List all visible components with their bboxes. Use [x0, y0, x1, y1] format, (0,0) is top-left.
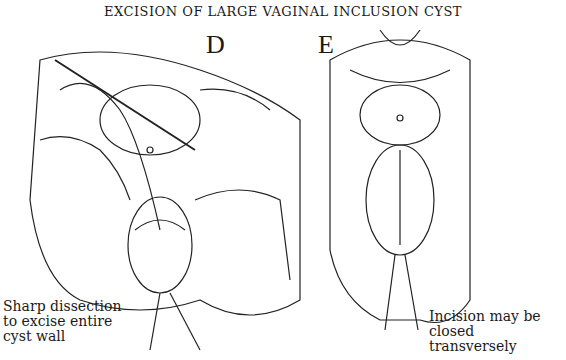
panel-e-drawing: [330, 30, 470, 330]
caption-panel-e: Incision may be closed transversely: [429, 309, 566, 354]
panel-label-d: D: [206, 30, 225, 60]
caption-line: closed transversely: [429, 324, 566, 354]
panel-label-e: E: [318, 30, 334, 60]
caption-panel-d: Sharp dissection to excise entire cyst w…: [3, 299, 122, 344]
caption-line: cyst wall: [3, 329, 122, 344]
caption-line: Incision may be: [429, 309, 566, 324]
caption-line: Sharp dissection: [3, 299, 122, 314]
caption-line: to excise entire: [3, 314, 122, 329]
